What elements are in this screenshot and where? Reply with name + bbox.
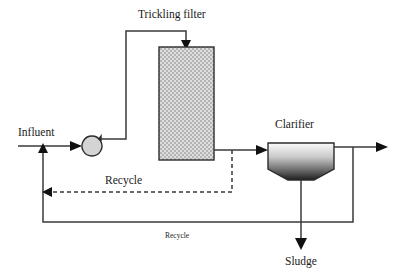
- pump-discharge-tab: [99, 136, 101, 140]
- clarifier-body: [268, 143, 334, 180]
- influent-label: Influent: [18, 126, 55, 138]
- influent-arrowhead-icon: [70, 141, 82, 151]
- recycle-lower-label: Recycle: [165, 231, 190, 240]
- influent-stream: Influent: [18, 126, 82, 151]
- trickling-filter-label: Trickling filter: [138, 8, 206, 21]
- clarifier-inlet-arrowhead-icon: [256, 145, 268, 155]
- trickling-filter-unit: [159, 47, 214, 160]
- process-flow-diagram: Influent Trickling filter Clarifier: [0, 0, 401, 273]
- clarifier-unit: Clarifier: [268, 118, 334, 180]
- sludge-stream: Sludge: [285, 180, 317, 268]
- trickling-filter-body: [159, 47, 214, 160]
- pump-unit: [82, 136, 102, 156]
- recycle-upper-label: Recycle: [105, 174, 142, 187]
- effluent-stream: [334, 142, 388, 152]
- effluent-arrowhead-icon: [376, 142, 388, 152]
- sludge-label: Sludge: [285, 255, 317, 268]
- sludge-arrowhead-icon: [295, 238, 307, 250]
- diagram-canvas: Influent Trickling filter Clarifier: [0, 0, 401, 273]
- clarifier-label: Clarifier: [275, 118, 314, 130]
- recycle-lower-arrowhead-icon: [38, 143, 48, 153]
- filter-to-clarifier-stream: [214, 145, 268, 155]
